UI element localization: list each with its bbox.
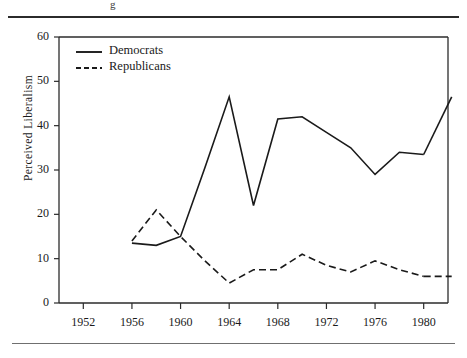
y-axis-tick-label: 30 [23, 162, 49, 177]
legend-label-republicans: Republicans [109, 59, 171, 74]
legend-label-democrats: Democrats [109, 43, 163, 58]
x-axis-tick-label: 1968 [254, 315, 302, 330]
x-axis-tick-label: 1976 [351, 315, 399, 330]
y-axis-tick-label: 60 [23, 29, 49, 44]
y-axis-tick-label: 50 [23, 73, 49, 88]
y-axis-tick-label: 40 [23, 118, 49, 133]
y-axis-tick-label: 0 [23, 295, 49, 310]
series-line-democrats [132, 97, 424, 246]
x-axis-tick-label: 1964 [205, 315, 253, 330]
x-axis-tick-label: 1972 [302, 315, 350, 330]
chart-svg [0, 0, 467, 358]
x-axis-tick-label: 1952 [59, 315, 107, 330]
x-axis-tick-label: 1956 [108, 315, 156, 330]
figure-panel: g Perceived Liberalism 01020304050601952… [0, 0, 467, 358]
series-line-republicans [132, 210, 424, 283]
y-axis-tick-label: 20 [23, 206, 49, 221]
x-axis-tick-label: 1960 [157, 315, 205, 330]
chart-plot-area: Perceived Liberalism 0102030405060195219… [0, 0, 467, 358]
x-axis-tick-label: 1980 [400, 315, 448, 330]
y-axis-tick-label: 10 [23, 251, 49, 266]
